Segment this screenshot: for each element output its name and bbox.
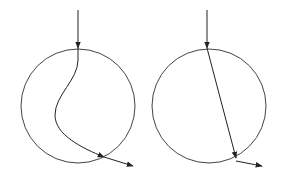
right-straight-trajectory [207, 48, 236, 158]
left-circle [21, 49, 135, 163]
left-panel-curved-path [21, 10, 135, 166]
left-curved-trajectory [55, 48, 104, 157]
left-exit-arrow [104, 157, 133, 166]
right-exit-arrow [236, 161, 262, 166]
right-panel-straight-path [152, 10, 266, 166]
diagram-canvas [0, 0, 281, 180]
right-circle [152, 49, 266, 163]
